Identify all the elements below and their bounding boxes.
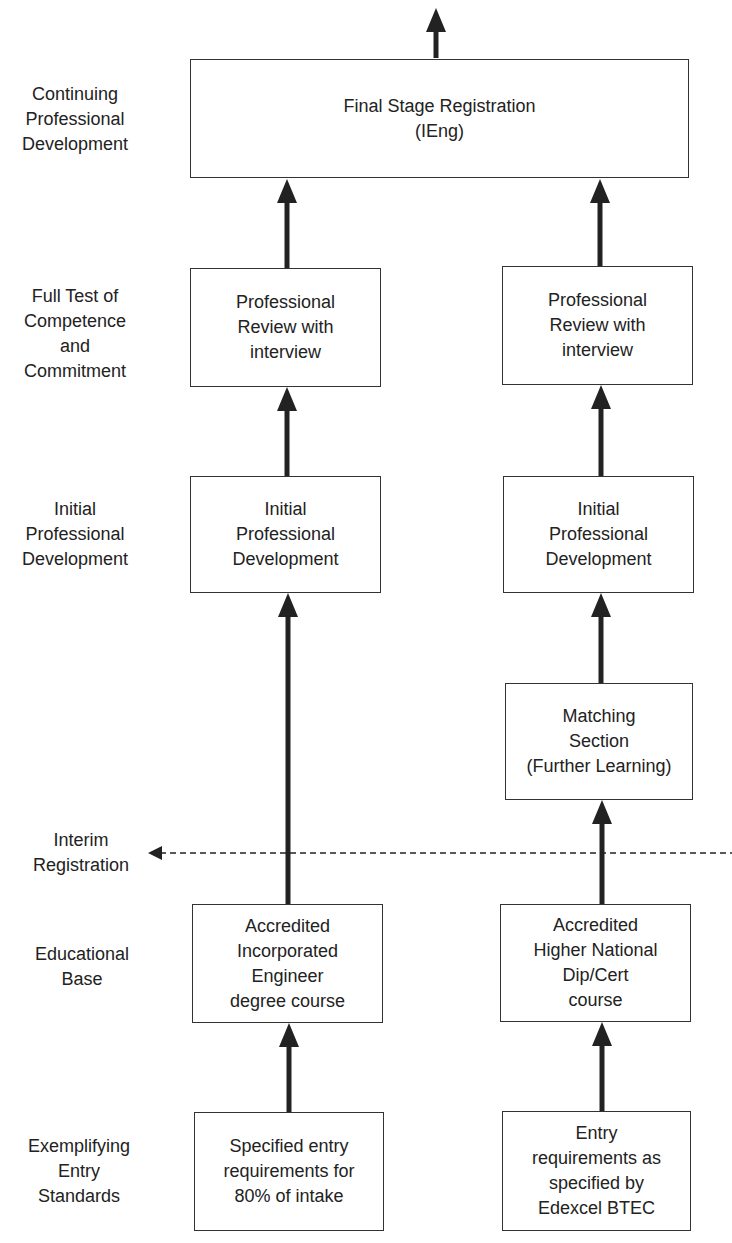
right-professional-review-box: Professional Review with interview — [502, 266, 693, 385]
left-entry-box: Specified entry requirements for 80% of … — [194, 1112, 384, 1231]
right-ipd-box: Initial Professional Development — [503, 476, 694, 593]
left-education-box: Accredited Incorporated Engineer degree … — [192, 904, 383, 1023]
stage-label-full-test: Full Test of Competence and Commitment — [0, 284, 150, 384]
stage-label-entry-standards: Exemplifying Entry Standards — [4, 1134, 154, 1209]
stage-label-educational-base: Educational Base — [7, 942, 157, 992]
left-ipd-box: Initial Professional Development — [190, 476, 381, 593]
right-entry-box: Entry requirements as specified by Edexc… — [502, 1111, 691, 1231]
right-education-box: Accredited Higher National Dip/Cert cour… — [500, 904, 691, 1022]
stage-label-ipd: Initial Professional Development — [0, 497, 150, 572]
right-matching-section-box: Matching Section (Further Learning) — [505, 683, 693, 800]
connector-layer — [0, 0, 732, 1243]
left-professional-review-box: Professional Review with interview — [190, 268, 381, 387]
final-stage-registration-box: Final Stage Registration (IEng) — [190, 59, 689, 178]
stage-label-cpd: Continuing Professional Development — [0, 82, 150, 157]
stage-label-interim: Interim Registration — [6, 828, 156, 878]
